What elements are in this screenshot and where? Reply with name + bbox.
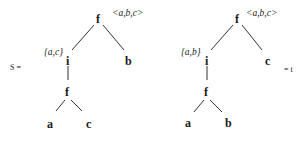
diagram-canvas: f <a,b,c> i {a,c} b f a c S = f <a,b,c> … [0, 0, 308, 142]
node-f-inner: f [65, 85, 70, 99]
node-b: b [225, 116, 232, 130]
node-a: a [47, 117, 53, 131]
edge-root-to-b [103, 25, 124, 50]
node-b: b [125, 54, 132, 68]
annotation-i: {a,b} [181, 47, 201, 57]
edge-f-to-b [210, 100, 222, 112]
node-a: a [185, 116, 191, 130]
node-c: c [265, 54, 271, 68]
t-equals-label: = t [284, 65, 294, 74]
edge-root-to-i [211, 25, 233, 50]
node-i: i [205, 54, 209, 68]
edge-f-to-c [71, 100, 82, 111]
node-c: c [86, 117, 92, 131]
node-root-f: f [96, 12, 101, 26]
node-i: i [66, 54, 70, 68]
tree-diagram: f <a,b,c> i {a,c} b f a c S = f <a,b,c> … [0, 0, 308, 142]
edge-root-to-c [242, 25, 262, 50]
edge-f-to-a [194, 100, 204, 112]
node-root-f: f [235, 12, 240, 26]
tree-s: f <a,b,c> i {a,c} b f a c S = [10, 8, 143, 131]
annotation-root: <a,b,c> [246, 8, 277, 18]
s-equals-label: S = [10, 63, 21, 72]
tree-t: f <a,b,c> i {a,b} c f a b = t [181, 8, 294, 130]
edge-root-to-i [72, 25, 94, 50]
node-f-inner: f [204, 85, 209, 99]
edge-f-to-a [56, 100, 65, 111]
annotation-i: {a,c} [44, 47, 63, 57]
annotation-root: <a,b,c> [112, 8, 143, 18]
